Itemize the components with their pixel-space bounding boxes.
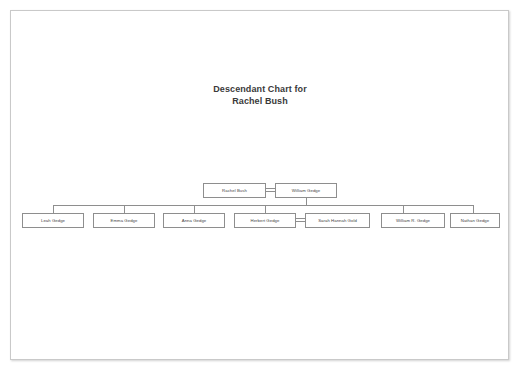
child-stem-2 xyxy=(124,205,125,213)
person-name: Anna Gedge xyxy=(163,218,224,223)
person-box-herbert-gedge[interactable]: Herbert Gedge xyxy=(234,213,296,228)
person-box-william-r-gedge[interactable]: William R. Gedge xyxy=(381,213,445,228)
page-title-line-2: Rachel Bush xyxy=(0,96,520,108)
person-box-rachel-bush[interactable]: Rachel Bush xyxy=(203,183,266,198)
marriage-connector-line-bottom xyxy=(296,221,305,222)
child-stem-5 xyxy=(403,205,404,213)
person-name: Leah Gedge xyxy=(22,218,83,223)
person-box-nathan-gedge[interactable]: Nathan Gedge xyxy=(450,213,500,228)
person-box-anna-gedge[interactable]: Anna Gedge xyxy=(163,213,225,228)
page-title-line-1: Descendant Chart for xyxy=(0,84,520,96)
person-box-emma-gedge[interactable]: Emma Gedge xyxy=(93,213,155,228)
person-box-leah-gedge[interactable]: Leah Gedge xyxy=(22,213,84,228)
person-name: Rachel Bush xyxy=(203,188,265,193)
child-stem-4 xyxy=(265,205,266,213)
marriage-connector-parents xyxy=(266,188,275,192)
marriage-connector-line-bottom xyxy=(266,191,275,192)
person-name: Sarah Hannah Gold xyxy=(305,218,369,223)
child-stem-3 xyxy=(194,205,195,213)
person-box-sarah-hannah-gold[interactable]: Sarah Hannah Gold xyxy=(305,213,370,228)
page-title: Descendant Chart for Rachel Bush xyxy=(0,84,520,107)
person-name: William R. Gedge xyxy=(381,218,444,223)
child-stem-6 xyxy=(473,205,474,213)
marriage-connector-line-top xyxy=(266,188,275,189)
chart-canvas: Descendant Chart for Rachel Bush Rachel … xyxy=(0,0,520,373)
person-name: William Gedge xyxy=(275,188,336,193)
person-name: Nathan Gedge xyxy=(451,218,500,223)
person-box-william-gedge[interactable]: William Gedge xyxy=(275,183,337,198)
person-name: Emma Gedge xyxy=(93,218,154,223)
marriage-connector-herbert xyxy=(296,218,305,222)
sibling-bus-line xyxy=(53,205,473,206)
marriage-connector-line-top xyxy=(296,218,305,219)
person-name: Herbert Gedge xyxy=(234,218,295,223)
child-stem-1 xyxy=(53,205,54,213)
